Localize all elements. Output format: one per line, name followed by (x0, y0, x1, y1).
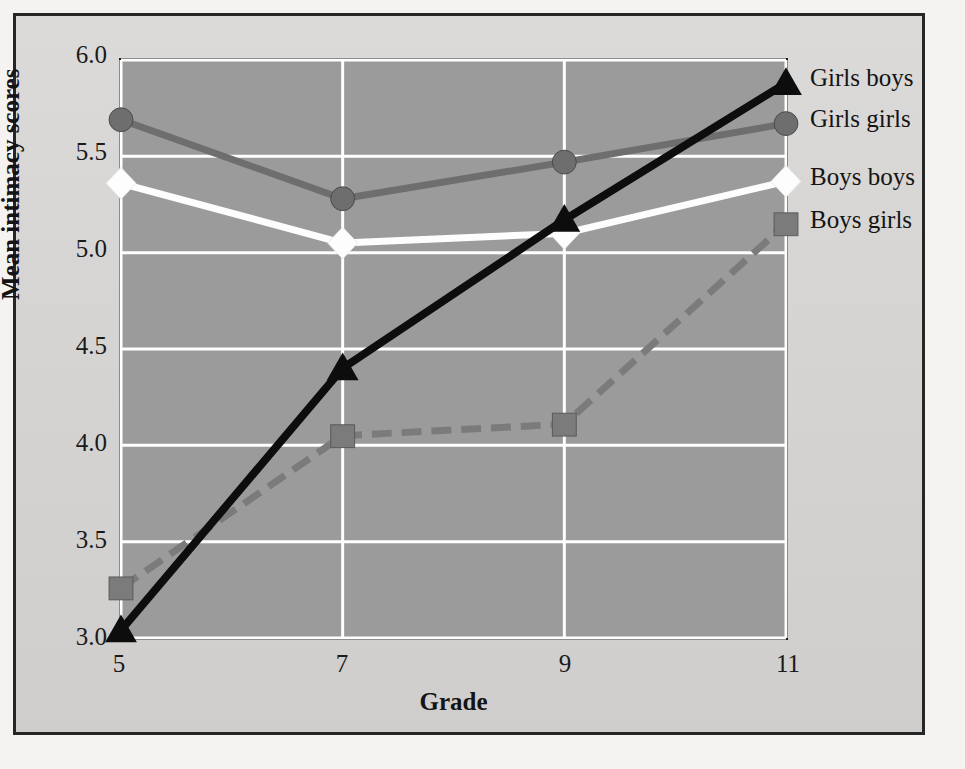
plot-area (119, 58, 788, 640)
circle-marker (552, 150, 576, 174)
data-point-square (552, 413, 576, 436)
data-point-circle (331, 187, 355, 211)
circle-marker (109, 108, 133, 132)
x-tick-label: 5 (113, 650, 126, 678)
y-tick-label: 4.0 (76, 429, 107, 457)
square-marker (109, 577, 133, 600)
y-tick-label: 5.0 (76, 235, 107, 263)
square-marker (331, 425, 355, 448)
x-tick-label: 7 (336, 650, 349, 678)
figure-canvas: Mean intimacy scores 3.03.54.04.55.05.56… (0, 0, 965, 769)
circle-marker (774, 112, 798, 136)
triangle-marker (548, 204, 580, 232)
legend-item-boys-boys: Boys boys (810, 163, 915, 191)
x-tick-label: 11 (776, 650, 800, 678)
data-point-circle (552, 150, 576, 174)
data-point-triangle (548, 204, 580, 232)
y-tick-label: 3.0 (76, 623, 107, 651)
series-line-boys-boys (121, 181, 786, 243)
legend-item-girls-boys: Girls boys (810, 64, 913, 92)
legend-item-boys-girls: Boys girls (810, 206, 912, 234)
data-point-circle (774, 112, 798, 136)
series-line-girls-girls (121, 120, 786, 199)
data-point-circle (109, 108, 133, 132)
y-tick-label: 3.5 (76, 526, 107, 554)
data-point-square (109, 577, 133, 600)
plot-svg (121, 60, 786, 638)
x-axis-title: Grade (119, 688, 788, 716)
data-point-square (774, 213, 798, 236)
circle-marker (331, 187, 355, 211)
series-line-boys-girls (121, 224, 786, 588)
data-point-square (331, 425, 355, 448)
x-tick-label: 9 (559, 650, 572, 678)
square-marker (774, 213, 798, 236)
y-tick-label: 4.5 (76, 332, 107, 360)
y-tick-label: 6.0 (76, 41, 107, 69)
series-line-girls-boys (121, 83, 786, 630)
legend-item-girls-girls: Girls girls (810, 105, 911, 133)
y-tick-label: 5.5 (76, 138, 107, 166)
y-axis-title: Mean intimacy scores (0, 69, 25, 300)
square-marker (552, 413, 576, 436)
